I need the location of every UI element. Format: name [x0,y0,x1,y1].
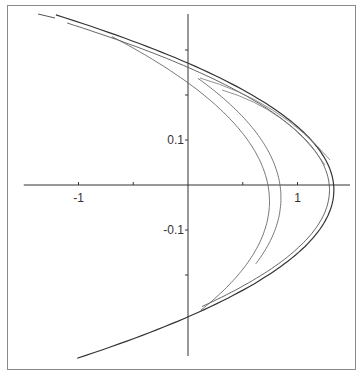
y-tick-label: 0.1 [167,133,184,147]
outer-band-2 [67,23,329,307]
tip-fold [38,14,55,18]
henon-attractor-plot: -110.1-0.1 [0,0,364,376]
fold-1 [200,78,330,160]
inner-band-1 [112,37,270,311]
outer-band-1 [56,15,334,358]
x-tick-label: 1 [294,191,301,205]
x-tick-label: -1 [73,191,84,205]
inner-band-2 [198,78,281,263]
y-tick-label: -0.1 [163,223,184,237]
